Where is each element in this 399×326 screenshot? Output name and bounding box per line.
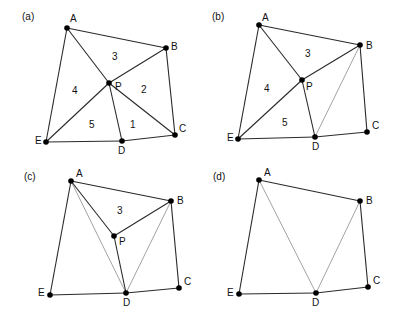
vertex-C	[172, 132, 178, 138]
vertex-label-D: D	[312, 297, 319, 308]
region-label: 1	[130, 119, 136, 130]
vertex-label-A: A	[70, 13, 77, 24]
vertex-B	[357, 42, 363, 48]
edge-DE	[50, 293, 126, 295]
vertex-label-C: C	[179, 123, 186, 134]
region-label: 5	[282, 117, 288, 128]
vertex-P	[106, 80, 112, 86]
vertex-B	[357, 198, 363, 204]
edge-AB	[259, 180, 360, 201]
edge-AP	[67, 28, 109, 83]
panel-d: (d)ABCDE	[213, 167, 380, 308]
edge-CD	[316, 287, 368, 293]
panel-b: (b)345ABCDEP	[212, 11, 379, 152]
region-label: 3	[305, 48, 311, 59]
vertex-label-P: P	[306, 81, 313, 92]
thin-edge-AD	[259, 180, 316, 293]
vertex-A	[256, 177, 262, 183]
vertex-label-C: C	[184, 276, 191, 287]
vertex-E	[235, 136, 241, 142]
vertex-label-C: C	[372, 120, 379, 131]
edge-DE	[238, 137, 315, 139]
panel-a: (a)12345ABCDEP	[22, 11, 186, 156]
vertex-label-B: B	[171, 41, 178, 52]
vertex-D	[119, 138, 125, 144]
edge-DE	[239, 293, 316, 294]
vertex-label-B: B	[366, 195, 373, 206]
thin-edge-BD	[316, 201, 360, 293]
region-label: 3	[112, 51, 118, 62]
vertex-E	[47, 292, 53, 298]
region-label: 3	[117, 205, 123, 216]
vertex-label-E: E	[35, 135, 42, 146]
vertex-label-C: C	[373, 275, 380, 286]
region-label: 5	[89, 119, 95, 130]
vertex-label-E: E	[227, 132, 234, 143]
vertex-D	[312, 134, 318, 140]
edge-EA	[239, 180, 259, 294]
edge-BC	[360, 201, 368, 287]
vertex-label-A: A	[262, 12, 269, 23]
vertex-E	[236, 291, 242, 297]
edge-BC	[166, 48, 175, 135]
edge-AB	[67, 28, 166, 48]
edge-CD	[315, 132, 367, 137]
vertex-label-E: E	[227, 287, 234, 298]
vertex-label-B: B	[366, 40, 373, 51]
region-label: 2	[141, 84, 147, 95]
edge-AB	[71, 181, 171, 201]
edge-AB	[259, 25, 360, 45]
vertex-C	[365, 284, 371, 290]
edge-BC	[171, 201, 179, 288]
vertex-D	[123, 290, 129, 296]
edge-CD	[122, 135, 175, 141]
vertex-label-B: B	[177, 195, 184, 206]
edge-AP	[71, 181, 114, 236]
vertex-label-D: D	[312, 141, 319, 152]
edge-AP	[259, 25, 302, 80]
vertex-A	[68, 178, 74, 184]
vertex-C	[364, 129, 370, 135]
vertex-A	[256, 22, 262, 28]
vertex-label-P: P	[119, 236, 126, 247]
region-label: 4	[72, 85, 78, 96]
edge-EA	[50, 181, 71, 295]
vertex-P	[299, 77, 305, 83]
panel-label: (d)	[213, 171, 225, 182]
region-label: 4	[264, 83, 270, 94]
vertex-E	[43, 139, 49, 145]
vertex-label-P: P	[115, 81, 122, 92]
vertex-label-A: A	[264, 167, 271, 178]
vertex-label-D: D	[123, 297, 130, 308]
vertex-label-D: D	[118, 145, 125, 156]
edge-DE	[46, 141, 122, 142]
vertex-label-A: A	[76, 168, 83, 179]
panel-label: (c)	[24, 171, 36, 182]
edge-BC	[360, 45, 367, 132]
vertex-B	[163, 45, 169, 51]
vertex-B	[168, 198, 174, 204]
panel-label: (a)	[22, 11, 34, 22]
vertex-label-E: E	[38, 287, 45, 298]
edge-CD	[126, 288, 179, 293]
panel-label: (b)	[212, 11, 224, 22]
thin-edge-AD	[71, 181, 126, 293]
vertex-D	[313, 290, 319, 296]
triangulation-figure: (a)12345ABCDEP(b)345ABCDEP(c)3ABCDEP(d)A…	[0, 0, 399, 326]
panel-c: (c)3ABCDEP	[24, 168, 191, 308]
vertex-C	[176, 285, 182, 291]
vertex-A	[64, 25, 70, 31]
vertex-P	[111, 233, 117, 239]
